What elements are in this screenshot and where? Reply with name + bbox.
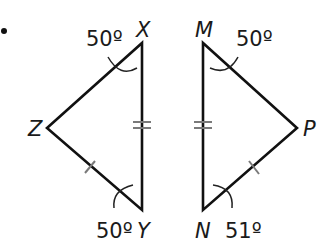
triangle-mnp-edges	[203, 43, 297, 210]
vertex-label-z: Z	[27, 117, 43, 141]
angle-label-n: 51º	[225, 219, 262, 243]
angle-label-x: 50º	[86, 27, 123, 51]
angle-label-m: 50º	[236, 27, 273, 51]
vertex-label-y: Y	[137, 219, 152, 243]
vertex-label-m: M	[195, 18, 213, 42]
vertex-label-p: P	[303, 117, 316, 141]
geometry-figure: X Y Z 50º 50º M N P 50º 51º	[0, 0, 323, 249]
triangle-xyz-edges	[47, 43, 142, 210]
triangle-xyz: X Y Z 50º 50º	[27, 18, 152, 243]
triangle-mnp: M N P 50º 51º	[194, 18, 316, 243]
angle-label-y: 50º	[96, 219, 133, 243]
vertex-label-x: X	[135, 18, 151, 42]
vertex-label-n: N	[195, 219, 211, 243]
triangles-diagram: X Y Z 50º 50º M N P 50º 51º	[0, 0, 323, 249]
bullet-dot	[1, 28, 7, 34]
